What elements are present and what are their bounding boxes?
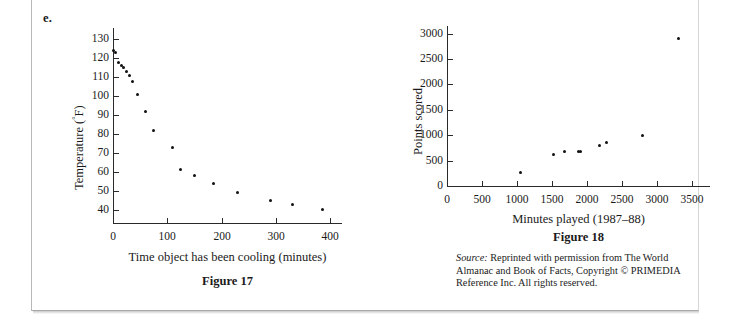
y-tick-figure-17 [114, 172, 119, 173]
y-tick-label-figure-17: 120 [85, 52, 109, 63]
x-tick-figure-17 [113, 218, 114, 223]
figure-18-caption: Figure 18 [447, 230, 710, 245]
source-text: Reprinted with permission from The World… [456, 252, 680, 288]
y-tick-figure-18 [448, 84, 453, 85]
x-tick-label-figure-17: 0 [88, 231, 138, 242]
y-tick-figure-18 [448, 161, 453, 162]
y-tick-figure-18 [448, 34, 453, 35]
data-point [128, 74, 131, 77]
x-tick-figure-18 [482, 181, 483, 186]
y-tick-label-figure-17: 130 [85, 33, 109, 44]
x-axis-line-figure-17 [113, 223, 342, 224]
x-tick-figure-18 [517, 181, 518, 186]
data-point [519, 171, 522, 174]
y-tick-figure-17 [114, 134, 119, 135]
y-tick-label-figure-18: 1500 [413, 104, 443, 115]
y-tick-label-figure-18: 2500 [413, 53, 443, 64]
source-note: Source: Reprinted with permission from T… [456, 252, 700, 290]
y-tick-figure-17 [114, 115, 119, 116]
data-point [291, 203, 294, 206]
data-point [321, 208, 324, 211]
y-tick-figure-17 [114, 77, 119, 78]
x-tick-figure-17 [167, 218, 168, 223]
x-tick-figure-17 [330, 218, 331, 223]
data-point [117, 61, 120, 64]
source-label: Source: [456, 252, 488, 263]
data-point [171, 146, 174, 149]
data-point [552, 153, 555, 156]
data-point [136, 93, 139, 96]
y-tick-figure-17 [114, 58, 119, 59]
y-tick-label-figure-18: 2000 [413, 78, 443, 89]
y-tick-figure-17 [114, 39, 119, 40]
x-tick-label-figure-17: 100 [142, 231, 192, 242]
x-tick-figure-18 [657, 181, 658, 186]
y-tick-figure-18 [448, 186, 453, 187]
y-tick-figure-17 [114, 96, 119, 97]
data-point [598, 144, 601, 147]
x-tick-label-figure-17: 300 [251, 231, 301, 242]
x-tick-figure-18 [692, 181, 693, 186]
x-tick-figure-18 [447, 181, 448, 186]
data-point [269, 199, 272, 202]
data-point [579, 150, 582, 153]
chart-figure-17: Temperature (°F) Time object has been co… [0, 0, 380, 300]
y-axis-title-figure-18: Points scored [411, 88, 426, 155]
y-tick-label-figure-17: 70 [85, 147, 109, 158]
y-tick-figure-18 [448, 135, 453, 136]
data-point [212, 182, 215, 185]
x-axis-line-figure-18 [447, 186, 710, 187]
data-point [144, 110, 147, 113]
data-point [131, 80, 134, 83]
y-tick-label-figure-17: 90 [85, 109, 109, 120]
y-tick-figure-18 [448, 59, 453, 60]
x-tick-label-figure-17: 400 [305, 231, 355, 242]
x-tick-label-figure-18: 3500 [667, 194, 717, 205]
y-axis-line-figure-18 [447, 26, 448, 187]
degree-symbol: ° [71, 117, 80, 120]
y-tick-label-figure-18: 1000 [413, 129, 443, 140]
y-tick-label-figure-18: 3000 [413, 28, 443, 39]
y-tick-label-figure-17: 40 [85, 204, 109, 215]
x-axis-title-figure-18: Minutes played (1987–88) [447, 212, 710, 227]
y-tick-figure-18 [448, 110, 453, 111]
plot-area-figure-18 [447, 26, 709, 186]
data-point [152, 129, 155, 132]
data-point [641, 134, 644, 137]
y-tick-figure-17 [114, 153, 119, 154]
x-tick-figure-17 [276, 218, 277, 223]
x-axis-title-figure-17: Time object has been cooling (minutes) [113, 250, 342, 265]
x-tick-figure-17 [222, 218, 223, 223]
y-tick-label-figure-17: 50 [85, 185, 109, 196]
figure-17-caption: Figure 17 [113, 274, 342, 289]
y-tick-label-figure-17: 60 [85, 166, 109, 177]
x-tick-figure-18 [552, 181, 553, 186]
x-tick-figure-18 [587, 181, 588, 186]
y-tick-figure-17 [114, 210, 119, 211]
y-tick-label-figure-18: 500 [413, 155, 443, 166]
y-tick-label-figure-18: 0 [413, 180, 443, 191]
y-tick-figure-17 [114, 191, 119, 192]
page-shadow [33, 311, 699, 314]
x-tick-label-figure-17: 200 [197, 231, 247, 242]
x-tick-figure-18 [622, 181, 623, 186]
y-tick-label-figure-17: 80 [85, 128, 109, 139]
y-tick-label-figure-17: 100 [85, 90, 109, 101]
plot-area-figure-17 [113, 28, 341, 223]
y-tick-label-figure-17: 110 [85, 71, 109, 82]
